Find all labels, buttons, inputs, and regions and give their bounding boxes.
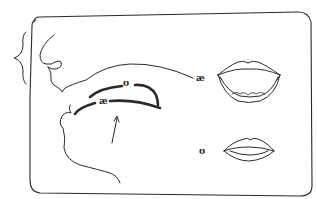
arrow [112, 116, 119, 143]
lips-open [218, 61, 280, 102]
lips-rounded [224, 138, 274, 161]
label-lips-open: æ [196, 73, 205, 83]
tongue-low-line [75, 103, 95, 114]
label-lips-rounded: ʊ [199, 146, 205, 156]
nose-profile [40, 35, 193, 92]
brace [14, 32, 26, 84]
label-tongue-high: ʊ [123, 78, 129, 88]
frame-border [30, 12, 312, 196]
label-tongue-low: æ [99, 96, 108, 106]
tongue-low-line-right [110, 101, 160, 108]
chin-profile [60, 105, 120, 183]
diagram-canvas [0, 0, 317, 199]
